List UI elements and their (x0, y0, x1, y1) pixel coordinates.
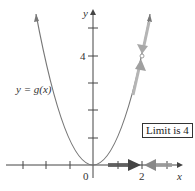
limit-label-box: Limit is 4 (142, 123, 193, 138)
limit-graph: y 4 y = g(x) 0 2 x (0, 0, 195, 191)
function-label: y = g(x) (15, 83, 52, 96)
x-tick-label-0: 0 (83, 170, 89, 182)
curve-arrow-left-icon (34, 14, 39, 22)
x-axis-label: x (176, 170, 182, 182)
down-arrow-icon (137, 44, 148, 54)
y-axis-label: y (82, 7, 88, 19)
y-tick-label-4: 4 (80, 50, 86, 62)
approach-point (140, 54, 144, 58)
curve-arrow-right-icon (147, 14, 152, 22)
up-arrow-icon (135, 59, 146, 71)
x-tick-label-2: 2 (139, 170, 145, 182)
left-arrow-icon (144, 159, 156, 171)
